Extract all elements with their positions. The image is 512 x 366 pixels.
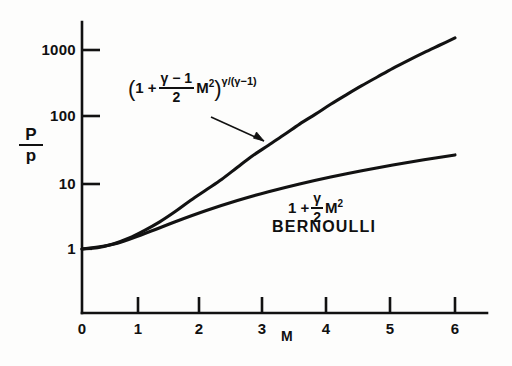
annotation-arrow <box>211 117 264 141</box>
annotation-isentropic-formula: (1 + γ − 1 2 M2)γ/(γ−1) <box>128 72 257 105</box>
isentropic-exponent: γ/(γ−1) <box>222 75 257 87</box>
one-plus: 1 + <box>288 199 309 216</box>
one-plus: 1 + <box>135 79 156 96</box>
annotation-bernoulli-label: BERNOULLI <box>272 218 376 236</box>
x-tick-label-5: 5 <box>379 320 401 337</box>
close-paren: ) <box>214 76 221 101</box>
mach-symbol: M <box>196 79 209 96</box>
curve-isentropic <box>82 38 455 249</box>
chart-figure: 1000 100 10 1 P p 0 1 2 3 4 5 6 M (1 + γ… <box>0 0 512 366</box>
x-tick-label-4: 4 <box>315 320 337 337</box>
x-tick-label-2: 2 <box>188 320 210 337</box>
mach-exponent: 2 <box>338 198 344 209</box>
gamma-minus-one-over-two-fraction: γ − 1 2 <box>159 71 195 104</box>
x-tick-label-6: 6 <box>444 320 466 337</box>
y-tick-label-10: 10 <box>16 175 76 192</box>
y-tick-label-100: 100 <box>16 107 76 124</box>
fraction-numerator: γ − 1 <box>159 71 195 87</box>
curve-bernoulli <box>82 155 455 249</box>
x-tick-label-3: 3 <box>251 320 273 337</box>
x-axis-title: M <box>281 328 293 344</box>
chart-plot-area <box>0 0 512 366</box>
y-axis-title-numerator: P <box>18 126 44 144</box>
mach-symbol: M <box>325 199 338 216</box>
y-axis-title: P p <box>18 126 44 164</box>
x-tick-label-1: 1 <box>127 320 149 337</box>
y-axis-title-denominator: p <box>18 147 44 164</box>
fraction-denominator: 2 <box>159 89 195 105</box>
y-tick-label-1: 1 <box>16 240 76 257</box>
y-tick-label-1000: 1000 <box>16 41 76 58</box>
fraction-numerator: γ <box>311 191 323 207</box>
x-tick-label-0: 0 <box>71 320 93 337</box>
